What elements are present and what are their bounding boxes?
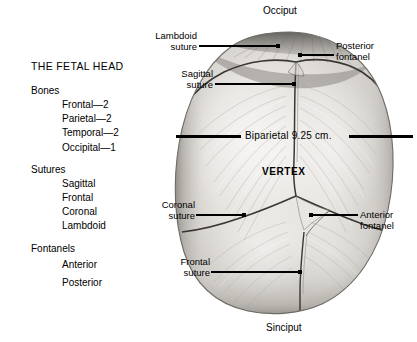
legend-item-temporal: Temporal—2 — [62, 126, 181, 140]
legend-heading-sutures: Sutures — [31, 164, 181, 175]
callout-coronal-line1: Coronal — [105, 199, 195, 210]
legend-item-frontal: Frontal—2 — [62, 98, 181, 112]
legend-item-sagittal: Sagittal — [62, 177, 181, 191]
callout-lambdoid-line1: Lambdoid — [102, 30, 197, 41]
callout-anterior-line2: fontanel — [360, 220, 394, 231]
callout-sagittal-line1: Sagittal — [118, 68, 213, 79]
callout-coronal-suture: Coronal suture — [105, 199, 195, 221]
callout-anterior-line1: Anterior — [360, 209, 394, 220]
sinciput-label: Sinciput — [266, 322, 302, 333]
vertex-label: VERTEX — [262, 166, 306, 177]
callout-lambdoid-line2: suture — [102, 41, 197, 52]
callout-lambdoid-suture: Lambdoid suture — [102, 30, 197, 52]
legend-group-bones: Bones Frontal—2 Parietal—2 Temporal—2 Oc… — [31, 85, 181, 155]
callout-posterior-line2: fontanel — [336, 51, 374, 62]
occiput-label: Occiput — [263, 5, 297, 16]
callout-coronal-line2: suture — [105, 210, 195, 221]
callout-posterior-fontanel: Posterior fontanel — [336, 40, 374, 62]
legend-item-occipital: Occipital—1 — [62, 141, 181, 155]
biparietal-label: Biparietal 9.25 cm. — [245, 130, 332, 141]
callout-anterior-fontanel: Anterior fontanel — [360, 209, 394, 231]
callout-frontal-suture: Frontal suture — [120, 256, 210, 278]
fetal-head-figure: THE FETAL HEAD Bones Frontal—2 Parietal—… — [0, 0, 417, 342]
callout-frontal-line1: Frontal — [120, 256, 210, 267]
callout-sagittal-suture: Sagittal suture — [118, 68, 213, 90]
callout-posterior-line1: Posterior — [336, 40, 374, 51]
legend-heading-fontanels: Fontanels — [31, 243, 181, 254]
callout-frontal-line2: suture — [120, 267, 210, 278]
callout-sagittal-line2: suture — [118, 79, 213, 90]
legend-item-parietal: Parietal—2 — [62, 112, 181, 126]
legend-item-lambdoid: Lambdoid — [62, 219, 181, 233]
